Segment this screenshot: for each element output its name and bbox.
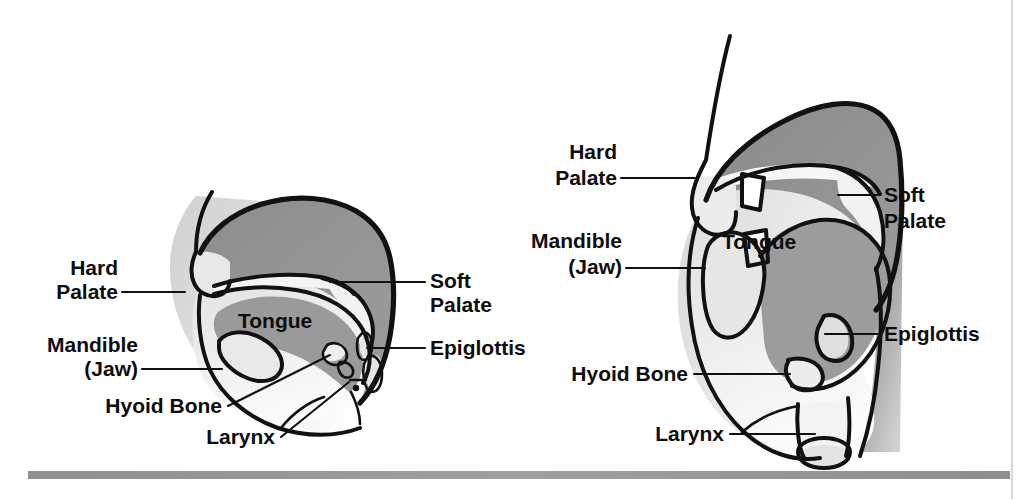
left-label-soft-palate-line2: Palate	[430, 293, 492, 316]
left-label-hard-palate-line2: Palate	[56, 280, 118, 303]
bottom-divider-bar	[28, 471, 1010, 479]
right-label-tongue: Tongue	[722, 230, 796, 253]
right-label-hard-palate-line1: Hard	[569, 140, 617, 163]
right-label-larynx: Larynx	[655, 422, 724, 445]
left-vocal-fold-dot	[353, 385, 359, 391]
right-label-hard-palate-line2: Palate	[555, 166, 617, 189]
left-label-soft-palate-line1: Soft	[430, 269, 471, 292]
left-label-mandible-line1: Mandible	[47, 333, 138, 356]
right-label-epiglottis: Epiglottis	[884, 322, 980, 345]
right-label-hyoid-bone: Hyoid Bone	[571, 362, 688, 385]
left-diagram: Hard Palate Mandible (Jaw) Hyoid Bone La…	[47, 192, 526, 448]
right-label-soft-palate-line1: Soft	[884, 183, 925, 206]
right-label-mandible-line1: Mandible	[531, 229, 622, 252]
figure-page: Hard Palate Mandible (Jaw) Hyoid Bone La…	[0, 0, 1027, 499]
right-label-soft-palate-line2: Palate	[884, 209, 946, 232]
left-label-larynx: Larynx	[206, 425, 275, 448]
left-label-hard-palate-line1: Hard	[70, 256, 118, 279]
left-label-tongue: Tongue	[238, 309, 312, 332]
left-label-hyoid-bone: Hyoid Bone	[105, 394, 222, 417]
anatomy-figure: Hard Palate Mandible (Jaw) Hyoid Bone La…	[0, 0, 1027, 499]
left-label-mandible-line2: (Jaw)	[84, 357, 138, 380]
right-diagram: Hard Palate Mandible (Jaw) Hyoid Bone La…	[531, 36, 980, 468]
left-label-epiglottis: Epiglottis	[430, 336, 526, 359]
right-label-mandible-line2: (Jaw)	[568, 255, 622, 278]
